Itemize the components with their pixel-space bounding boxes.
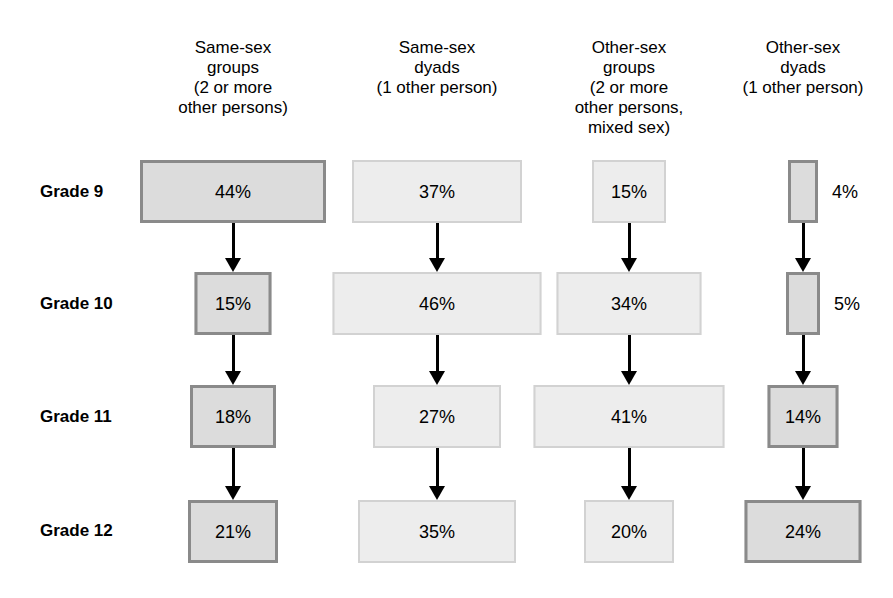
arrow-a4r3 xyxy=(794,448,812,500)
row-label-grade-10: Grade 10 xyxy=(40,294,113,314)
arrow-head-icon xyxy=(621,258,637,272)
arrow-head-icon xyxy=(795,258,811,272)
value-label: 20% xyxy=(611,522,647,542)
value-label-outside-c4r2: 5% xyxy=(834,294,860,314)
arrow-head-icon xyxy=(225,258,241,272)
value-box-c1r4: 21% xyxy=(188,500,278,563)
row-label-grade-11: Grade 11 xyxy=(40,407,112,427)
value-label: 35% xyxy=(419,522,455,542)
value-label: 46% xyxy=(419,294,455,314)
arrow-head-icon xyxy=(621,486,637,500)
value-label: 27% xyxy=(419,407,455,427)
value-box-c3r2: 34% xyxy=(557,272,702,335)
value-box-c1r1: 44% xyxy=(140,160,326,223)
value-label: 44% xyxy=(215,182,251,202)
value-box-c2r2: 46% xyxy=(333,272,542,335)
arrow-head-icon xyxy=(621,371,637,385)
value-label: 34% xyxy=(611,294,647,314)
value-box-c4r4: 24% xyxy=(745,500,862,563)
value-label: 41% xyxy=(611,407,647,427)
arrow-a1r1 xyxy=(224,223,242,272)
value-label: 18% xyxy=(215,407,251,427)
arrow-a2r2 xyxy=(428,335,446,385)
arrow-a1r2 xyxy=(224,335,242,385)
arrow-a3r3 xyxy=(620,448,638,500)
value-box-c3r1: 15% xyxy=(592,160,666,223)
arrow-a3r1 xyxy=(620,223,638,272)
column-header-same-sex-groups: Same-sex groups (2 or more other persons… xyxy=(128,38,338,118)
value-box-c2r4: 35% xyxy=(358,500,516,563)
arrow-a2r1 xyxy=(428,223,446,272)
arrow-shaft xyxy=(232,223,235,259)
value-label-outside-c4r1: 4% xyxy=(832,182,858,202)
arrow-shaft xyxy=(802,448,805,487)
arrow-head-icon xyxy=(795,371,811,385)
row-label-grade-9: Grade 9 xyxy=(40,182,103,202)
value-box-c4r3: 14% xyxy=(768,385,839,448)
value-box-c3r3: 41% xyxy=(534,385,725,448)
value-box-c2r1: 37% xyxy=(352,160,522,223)
value-label: 14% xyxy=(785,407,821,427)
value-box-c2r3: 27% xyxy=(373,385,501,448)
arrow-head-icon xyxy=(795,486,811,500)
value-label: 15% xyxy=(611,182,647,202)
arrow-shaft xyxy=(628,448,631,487)
arrow-a1r3 xyxy=(224,448,242,500)
arrow-a3r2 xyxy=(620,335,638,385)
value-box-c3r4: 20% xyxy=(584,500,674,563)
arrow-shaft xyxy=(628,223,631,259)
arrow-shaft xyxy=(436,448,439,487)
value-box-c1r3: 18% xyxy=(190,385,276,448)
flow-diagram: Same-sex groups (2 or more other persons… xyxy=(0,0,893,598)
arrow-head-icon xyxy=(429,371,445,385)
arrow-shaft xyxy=(436,223,439,259)
arrow-shaft xyxy=(232,335,235,372)
arrow-head-icon xyxy=(429,258,445,272)
arrow-a2r3 xyxy=(428,448,446,500)
value-box-c4r1 xyxy=(788,160,818,223)
arrow-head-icon xyxy=(225,486,241,500)
arrow-shaft xyxy=(232,448,235,487)
column-header-same-sex-dyads: Same-sex dyads (1 other person) xyxy=(332,38,542,98)
value-box-c1r2: 15% xyxy=(195,272,272,335)
value-label: 21% xyxy=(215,522,251,542)
arrow-shaft xyxy=(802,335,805,372)
arrow-head-icon xyxy=(225,371,241,385)
row-label-grade-12: Grade 12 xyxy=(40,521,113,541)
arrow-shaft xyxy=(802,223,805,259)
column-header-other-sex-dyads: Other-sex dyads (1 other person) xyxy=(698,38,893,98)
value-label: 15% xyxy=(215,294,251,314)
value-box-c4r2 xyxy=(786,272,820,335)
arrow-a4r1 xyxy=(794,223,812,272)
arrow-head-icon xyxy=(429,486,445,500)
value-label: 24% xyxy=(785,522,821,542)
arrow-shaft xyxy=(628,335,631,372)
arrow-a4r2 xyxy=(794,335,812,385)
arrow-shaft xyxy=(436,335,439,372)
value-label: 37% xyxy=(419,182,455,202)
